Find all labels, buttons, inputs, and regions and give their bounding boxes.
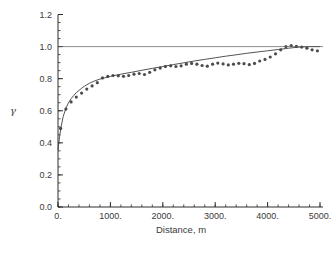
variogram-point [85,88,88,91]
variogram-point [222,62,225,65]
variogram-model-curve [58,47,320,151]
variogram-point [153,68,156,71]
variogram-point [148,71,151,74]
variogram-point [127,74,130,77]
variogram-point [232,63,235,66]
y-tick-label: 0.6 [39,106,52,116]
y-tick-label: 0.2 [39,170,52,180]
variogram-point [138,72,141,75]
x-tick-label: 1000. [99,211,122,221]
y-tick-label: 1.2 [39,10,52,20]
variogram-point [190,62,193,65]
variogram-point [201,64,204,67]
y-tick-label: 0.0 [39,202,52,212]
variogram-point [316,49,319,52]
variogram-point [248,63,251,66]
variogram-point [211,63,214,66]
experimental-variogram-points [59,44,319,130]
variogram-chart: 0.1000.2000.3000.4000.5000.0.00.20.40.60… [0,0,334,256]
x-tick-label: 0. [54,211,62,221]
y-tick-label: 1.0 [39,42,52,52]
variogram-point [195,63,198,66]
variogram-point [237,62,240,65]
variogram-point [91,84,94,87]
variogram-point [258,59,261,62]
variogram-point [253,62,256,65]
variogram-point [227,63,230,66]
variogram-point [80,92,83,95]
x-tick-label: 5000. [309,211,332,221]
x-tick-label: 2000. [152,211,175,221]
variogram-point [75,96,78,99]
y-axis-label: γ [10,105,16,116]
x-tick-label: 3000. [204,211,227,221]
variogram-point [143,73,146,76]
variogram-point [180,64,183,67]
variogram-point [206,65,209,68]
variogram-point [122,75,125,78]
variogram-point [274,52,277,55]
variogram-figure: 0.1000.2000.3000.4000.5000.0.00.20.40.60… [0,0,334,256]
variogram-point [185,63,188,66]
y-tick-label: 0.4 [39,138,52,148]
page: 0.1000.2000.3000.4000.5000.0.00.20.40.60… [0,0,334,256]
variogram-point [263,58,266,61]
variogram-point [132,73,135,76]
x-axis-label: Distance, m [156,224,206,235]
x-tick-label: 4000. [256,211,279,221]
variogram-point [96,81,99,84]
variogram-point [216,62,219,65]
variogram-point [311,48,314,51]
variogram-point [269,55,272,58]
variogram-point [242,62,245,65]
y-tick-label: 0.8 [39,74,52,84]
variogram-point [174,65,177,68]
